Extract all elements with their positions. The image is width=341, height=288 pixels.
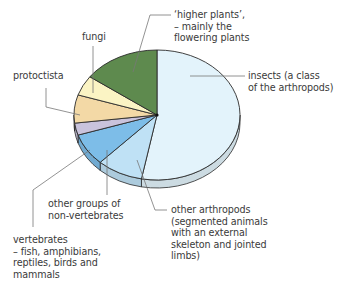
- pie-center-dot: [155, 113, 158, 116]
- label-higher-plants: ‘higher plants’, – mainly the flowering …: [174, 9, 249, 44]
- label-other-groups: other groups of non-vertebrates: [48, 198, 124, 221]
- label-insects: insects (a class of the arthropods): [248, 70, 333, 93]
- label-vertebrates: vertebrates – fish, amphibians, reptiles…: [13, 234, 101, 280]
- label-protoctista: protoctista: [13, 70, 64, 82]
- label-other-arthropods: other arthropods (segmented animals with…: [171, 204, 268, 262]
- pie-top-face: [74, 50, 240, 180]
- label-fungi: fungi: [82, 31, 106, 43]
